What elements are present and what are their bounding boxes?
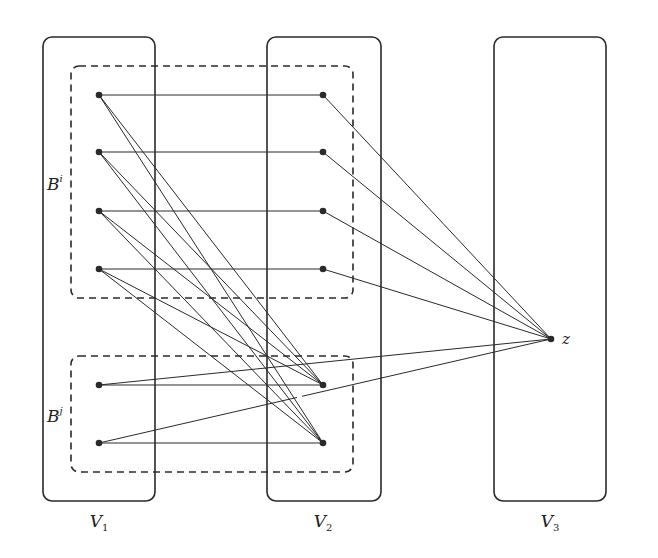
vertex-b3 [320,208,327,215]
partition-box-v3 [494,37,606,501]
vertex-z [548,336,555,343]
vertex-a2 [96,149,103,156]
edge-crossing-gaps [297,396,302,397]
vertex-a4 [96,266,103,273]
vertex-a1 [96,92,103,99]
vertex-b6 [320,440,327,447]
bipartite-block-diagram: V1V2V3BiBjz [0,0,658,558]
block-label-bi: Bi [46,173,63,194]
vertex-a6 [96,440,103,447]
vertex-a3 [96,208,103,215]
vertex-b2 [320,149,327,156]
edge-b1-z [323,95,551,339]
edge-gap [297,396,302,397]
partition-label-v3: V3 [541,511,560,533]
vertex-b5 [320,382,327,389]
vertex-label-z: z [561,330,570,348]
edge-b3-z [323,211,551,339]
edge-a1-b5 [99,95,323,385]
edge-b2-z [323,152,551,339]
vertex-b1 [320,92,327,99]
edge-a4-b5 [99,269,323,385]
vertex-b4 [320,266,327,273]
edge-a6-z [99,339,551,443]
block-label-bj: Bj [46,405,63,426]
edge-a3-b5 [99,211,323,385]
edge-a5-z [99,339,551,385]
vertex-a5 [96,382,103,389]
partition-label-v1: V1 [90,511,109,533]
partition-label-v2: V2 [314,511,333,533]
edge-b4-z [323,269,551,339]
block-box-bi [71,66,353,298]
